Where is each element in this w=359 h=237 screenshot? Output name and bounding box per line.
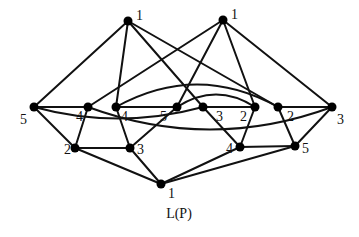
node-D5 xyxy=(173,103,182,112)
node-label-H3: 3 xyxy=(337,112,344,127)
node-R5 xyxy=(291,142,300,151)
node-label-R4: 4 xyxy=(226,141,233,156)
node-E3 xyxy=(199,103,208,112)
node-A5 xyxy=(30,103,39,112)
node-label-L2: 2 xyxy=(64,142,71,157)
node-label-A5: 5 xyxy=(20,112,27,127)
node-T2 xyxy=(219,16,228,25)
node-F2 xyxy=(251,103,260,112)
node-L2 xyxy=(71,144,80,153)
edge-layer xyxy=(34,20,332,184)
curved-edge-D5-F2 xyxy=(177,95,255,108)
edge-R4-R5 xyxy=(240,146,295,147)
node-label-E3: 3 xyxy=(216,109,223,124)
node-label-C4: 4 xyxy=(121,109,128,124)
edge-T1-A5 xyxy=(34,21,128,107)
diagram-caption: L(P) xyxy=(166,206,192,222)
edge-T1-C4 xyxy=(116,21,128,107)
edge-L3-BOT xyxy=(130,148,161,184)
node-C4 xyxy=(112,103,121,112)
node-label-D5: 5 xyxy=(160,109,167,124)
edge-L2-BOT xyxy=(75,148,161,184)
node-R4 xyxy=(236,143,245,152)
node-label-L3: 3 xyxy=(137,142,144,157)
node-label-B4: 4 xyxy=(76,109,83,124)
node-B4 xyxy=(84,103,93,112)
node-label-F2: 2 xyxy=(240,109,247,124)
lattice-diagram: 115445322323451 L(P) xyxy=(0,0,359,237)
lattice-graph-canvas: 115445322323451 L(P) xyxy=(0,0,359,237)
node-G2 xyxy=(274,103,283,112)
node-L3 xyxy=(126,144,135,153)
node-label-BOT: 1 xyxy=(168,186,175,201)
node-H3 xyxy=(328,103,337,112)
node-layer xyxy=(30,16,337,189)
node-label-R5: 5 xyxy=(302,141,309,156)
node-label-T1: 1 xyxy=(136,8,143,23)
node-label-T2: 1 xyxy=(231,7,238,22)
edge-T1-E3 xyxy=(128,21,203,107)
node-T1 xyxy=(124,17,133,26)
node-label-G2: 2 xyxy=(287,109,294,124)
node-BOT xyxy=(157,180,166,189)
